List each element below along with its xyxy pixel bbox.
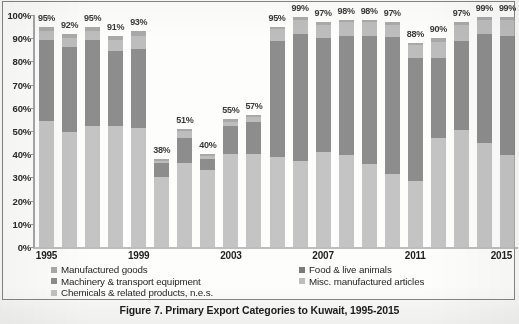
bar-column[interactable] (385, 22, 400, 247)
y-axis-tick-mark (30, 201, 34, 202)
bar-segment (39, 40, 54, 120)
bar-column[interactable] (108, 36, 123, 247)
x-axis-tick-label: 1999 (128, 250, 149, 261)
y-axis-tick-label: 20% (13, 195, 31, 206)
legend-swatch-icon (299, 267, 305, 273)
bar-segment (293, 34, 308, 161)
bar-column[interactable] (339, 20, 354, 247)
bar-segment (108, 126, 123, 247)
bar-segment (293, 161, 308, 247)
legend-swatch-icon (51, 278, 57, 284)
legend-item[interactable]: Chemicals & related products, n.e.s. (51, 287, 213, 298)
bar-segment (408, 181, 423, 247)
y-axis-tick-mark (30, 61, 34, 62)
bar-data-label: 55% (222, 105, 239, 115)
bar-segment (200, 159, 215, 170)
x-axis-tick-label: 2011 (405, 250, 426, 261)
bar-segment (477, 20, 492, 34)
bar-column[interactable] (293, 17, 308, 247)
bar-segment (270, 29, 285, 40)
bar-column[interactable] (223, 119, 238, 247)
bar-segment (431, 42, 446, 59)
legend-swatch-icon (299, 278, 305, 284)
legend-item-label: Machinery & transport equipment (61, 276, 201, 287)
bar-segment (62, 47, 77, 132)
bar-column[interactable] (454, 22, 469, 247)
bar-segment (316, 38, 331, 152)
bar-segment (477, 34, 492, 143)
legend-item[interactable]: Food & live animals (299, 264, 392, 275)
bar-data-label: 97% (453, 8, 470, 18)
y-axis-tick-mark (30, 38, 34, 39)
bar-column[interactable] (270, 27, 285, 247)
bar-column[interactable] (362, 20, 377, 247)
legend-item-label: Misc. manufactured articles (309, 276, 424, 287)
x-axis-tick-label: 2003 (220, 250, 241, 261)
bar-data-label: 98% (338, 6, 355, 16)
y-axis-tick-mark (30, 85, 34, 86)
x-axis-line (33, 247, 518, 249)
bar-column[interactable] (154, 159, 169, 247)
bar-segment (131, 128, 146, 247)
bar-column[interactable] (177, 129, 192, 247)
bar-segment (316, 152, 331, 247)
legend-item[interactable]: Misc. manufactured articles (299, 276, 424, 287)
bar-segment (500, 155, 515, 247)
x-axis-tick-label: 2007 (312, 250, 333, 261)
y-axis-tick-mark (30, 154, 34, 155)
bar-segment (385, 37, 400, 174)
bar-column[interactable] (477, 17, 492, 247)
bar-column[interactable] (131, 31, 146, 247)
y-axis-tick-label: 30% (13, 172, 31, 183)
bar-segment (385, 25, 400, 38)
bar-segment (62, 38, 77, 47)
bar-data-label: 38% (153, 145, 170, 155)
bar-data-label: 57% (245, 101, 262, 111)
bar-segment (339, 155, 354, 247)
bar-segment (154, 163, 169, 177)
bar-segment (39, 31, 54, 40)
bar-column[interactable] (85, 27, 100, 247)
bar-data-label: 95% (268, 13, 285, 23)
bar-segment (131, 36, 146, 49)
bar-segment (500, 20, 515, 35)
bar-column[interactable] (500, 17, 515, 247)
bar-segment (85, 126, 100, 247)
bar-column[interactable] (408, 43, 423, 247)
bar-segment (339, 22, 354, 36)
legend-item[interactable]: Machinery & transport equipment (51, 276, 201, 287)
bar-segment (154, 177, 169, 247)
y-axis-tick-label: 0% (18, 242, 31, 253)
bar-data-label: 93% (130, 17, 147, 27)
y-axis: 0%10%20%30%40%50%60%70%80%90%100% (3, 15, 31, 247)
bar-segment (246, 154, 261, 247)
y-axis-tick-mark (30, 177, 34, 178)
y-axis-tick-label: 70% (13, 79, 31, 90)
y-axis-tick-mark (30, 224, 34, 225)
bar-data-label: 95% (38, 13, 55, 23)
x-axis-tick-label: 2015 (491, 250, 512, 261)
y-axis-tick-mark (30, 131, 34, 132)
bar-column[interactable] (39, 27, 54, 247)
legend-item[interactable]: Manufactured goods (51, 264, 148, 275)
bar-column[interactable] (200, 154, 215, 247)
y-axis-tick-mark (30, 247, 34, 248)
bar-segment (39, 121, 54, 247)
bar-column[interactable] (246, 115, 261, 247)
bar-column[interactable] (316, 22, 331, 247)
bar-segment (177, 131, 192, 138)
bar-column[interactable] (62, 34, 77, 247)
bar-segment (385, 174, 400, 247)
figure-caption: Figure 7. Primary Export Categories to K… (0, 303, 519, 324)
bar-column[interactable] (431, 38, 446, 247)
bar-data-label: 51% (176, 115, 193, 125)
y-axis-tick-label: 80% (13, 56, 31, 67)
bar-segment (408, 45, 423, 58)
bar-segment (454, 130, 469, 247)
y-axis-tick-label: 60% (13, 102, 31, 113)
bar-data-label: 99% (499, 3, 516, 13)
bar-segment (270, 41, 285, 157)
bar-segment (85, 40, 100, 126)
bar-segment (131, 49, 146, 129)
y-axis-tick-mark (30, 108, 34, 109)
